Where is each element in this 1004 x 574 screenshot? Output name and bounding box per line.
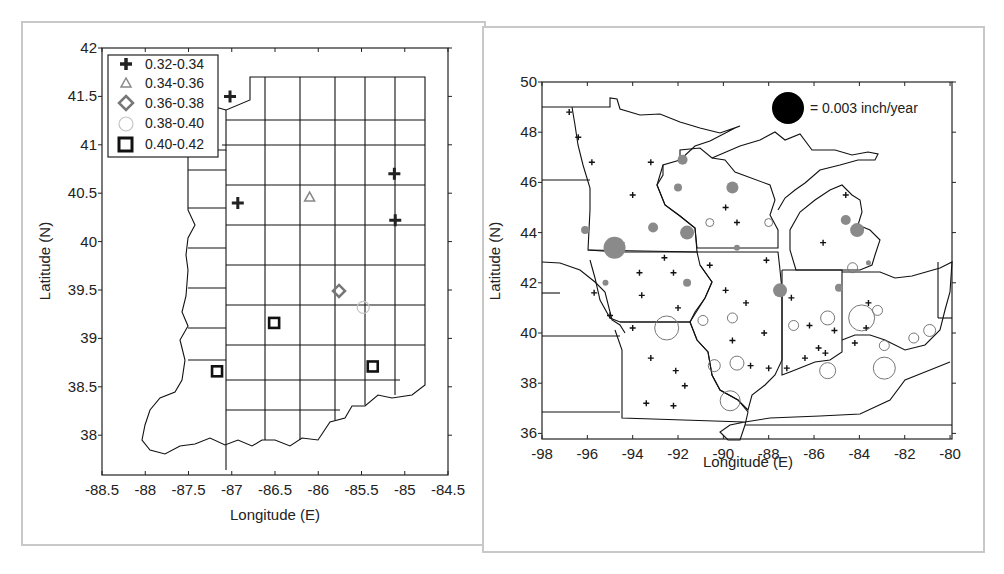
legend-label: 0.36-0.38 [145, 95, 204, 111]
plus-icon [224, 90, 236, 102]
plus-marker-icon [682, 383, 688, 389]
marker-0.32-0.34 [232, 197, 244, 209]
filled-circle-marker-icon [648, 223, 658, 233]
right-y-axis-ticks: 5048464442403836 [520, 73, 956, 441]
plus-marker-icon [831, 327, 837, 333]
marker-0.34-0.36 [305, 192, 315, 201]
plus-marker-icon [673, 368, 679, 374]
plus-marker-icon [630, 192, 636, 198]
plus-marker-icon [639, 292, 645, 298]
plus-marker-icon [566, 109, 572, 115]
legend-label: 0.32-0.34 [145, 56, 204, 72]
plus-marker-icon [743, 300, 749, 306]
left-legend: 0.32-0.34 0.34-0.36 0.36-0.38 0.38-0.40 … [108, 55, 218, 157]
legend-label: 0.40-0.42 [145, 136, 204, 152]
left-y-axis-title: Latitude (N) [36, 222, 53, 300]
plus-marker-icon [670, 403, 676, 409]
plus-marker-icon [816, 345, 822, 351]
hollow-circle-marker-icon [821, 311, 835, 325]
x-tick-label: -82 [894, 445, 916, 462]
y-tick-label: 38 [520, 374, 537, 391]
plus-marker-icon [729, 338, 735, 344]
filled-circle-marker-icon [841, 215, 851, 225]
filled-circle-marker-icon [734, 245, 740, 251]
square-icon [212, 366, 222, 376]
marker-0.40-0.42 [368, 361, 378, 371]
marker-0.32-0.34 [224, 90, 236, 102]
hollow-circle-marker-icon [909, 333, 919, 343]
y-tick-label: 40 [80, 233, 97, 250]
hollow-circle-marker-icon [727, 313, 737, 323]
hollow-circle-marker-icon [873, 357, 895, 379]
x-tick-label: -88.5 [85, 481, 119, 498]
plus-marker-icon [748, 363, 754, 369]
x-tick-label: -87 [221, 481, 243, 498]
plus-marker-icon [723, 287, 729, 293]
state-boundaries [542, 98, 952, 440]
right-plot-frame [542, 82, 952, 439]
hollow-circle-marker-icon [924, 324, 936, 336]
filled-circle-marker-icon [604, 237, 626, 259]
x-tick-label: -84.5 [431, 481, 465, 498]
y-tick-label: 46 [520, 173, 537, 190]
filled-circle-marker-icon [602, 280, 608, 286]
filled-circle-marker-icon [678, 155, 688, 165]
x-tick-label: -85 [394, 481, 416, 498]
x-tick-label: -84 [849, 445, 871, 462]
plus-marker-icon [843, 192, 849, 198]
y-tick-label: 48 [520, 123, 537, 140]
plus-icon [388, 168, 400, 180]
plus-marker-icon [661, 255, 667, 261]
y-tick-label: 42 [80, 39, 97, 56]
y-tick-label: 50 [520, 73, 537, 90]
y-tick-label: 38 [80, 426, 97, 443]
plus-marker-icon [591, 290, 597, 296]
plus-marker-icon [766, 365, 772, 371]
legend-item-0.40-0.42: 0.40-0.42 [119, 136, 204, 152]
plus-marker-icon [763, 257, 769, 263]
x-tick-label: -86 [307, 481, 329, 498]
plus-marker-icon [648, 159, 654, 165]
hollow-circle-marker-icon [698, 315, 708, 325]
x-tick-label: -94 [622, 445, 644, 462]
plus-marker-icon [734, 220, 740, 226]
marker-0.38-0.40 [357, 301, 369, 313]
y-tick-label: 39.5 [68, 281, 97, 298]
plus-marker-icon [630, 325, 636, 331]
filled-circle-marker-icon [773, 283, 787, 297]
size-legend: = 0.003 inch/year [772, 92, 918, 124]
plus-marker-icon [707, 262, 713, 268]
plus-marker-icon [648, 355, 654, 361]
circle-icon [357, 301, 369, 313]
hollow-circle-marker-icon [820, 363, 836, 379]
hollow-circle-marker-icon [655, 316, 679, 340]
marker-0.32-0.34 [388, 168, 400, 180]
left-data-markers [212, 90, 401, 376]
size-reference-circle-icon [772, 92, 804, 124]
y-tick-label: 36 [520, 424, 537, 441]
x-tick-label: -96 [576, 445, 598, 462]
legend-label: 0.34-0.36 [145, 75, 204, 91]
hollow-circle-marker-icon [849, 305, 875, 331]
right-y-axis-title: Latitude (N) [486, 222, 503, 300]
plus-marker-icon [589, 159, 595, 165]
x-tick-label: -98 [531, 445, 553, 462]
right-x-axis-ticks: -98-96-94-92-90-88-86-84-82-80 [531, 82, 961, 462]
right-x-axis-title: Longitude (E) [703, 453, 793, 470]
plus-icon [232, 197, 244, 209]
x-tick-label: -85.5 [344, 481, 378, 498]
filled-circle-marker-icon [835, 284, 843, 292]
hollow-circle-marker-icon [706, 219, 714, 227]
plus-marker-icon [802, 355, 808, 361]
figure-canvas: -88.5-88-87.5-87-86.5-86-85.5-85-84.5 42… [0, 0, 1004, 574]
plus-marker-icon [675, 305, 681, 311]
hollow-circle-marker-icon [720, 391, 740, 411]
left-x-axis-title: Longitude (E) [230, 506, 320, 523]
plus-marker-icon [852, 340, 858, 346]
x-tick-label: -80 [939, 445, 961, 462]
hollow-circle-marker-icon [848, 263, 858, 273]
triangle-icon [305, 192, 315, 201]
filled-circle-marker-icon [674, 183, 682, 191]
left-plot: -88.5-88-87.5-87-86.5-86-85.5-85-84.5 42… [36, 39, 465, 523]
filled-circle-marker-icon [726, 181, 738, 193]
